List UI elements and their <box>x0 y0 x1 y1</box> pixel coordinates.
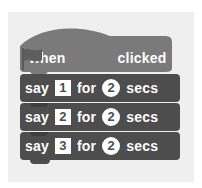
block-bottom-tab <box>30 160 50 164</box>
say-label: say <box>25 80 49 96</box>
secs-label: secs <box>126 109 158 125</box>
message-input[interactable]: 2 <box>55 109 71 125</box>
duration-input[interactable]: 2 <box>102 108 120 126</box>
say-for-secs-block-3[interactable]: say 3 for 2 secs <box>20 132 180 160</box>
message-input[interactable]: 3 <box>55 138 71 154</box>
hat-suffix-label: clicked <box>118 50 167 66</box>
duration-input[interactable]: 2 <box>102 137 120 155</box>
block-notch <box>30 103 48 107</box>
when-flag-clicked-block[interactable]: when clicked <box>20 24 172 72</box>
say-label: say <box>25 138 49 154</box>
say-for-secs-block-1[interactable]: say 1 for 2 secs <box>20 74 180 102</box>
block-notch <box>30 132 48 136</box>
message-input[interactable]: 1 <box>55 80 71 96</box>
green-flag-icon <box>80 46 106 70</box>
say-for-secs-block-2[interactable]: say 2 for 2 secs <box>20 103 180 131</box>
say-label: say <box>25 109 49 125</box>
for-label: for <box>77 109 96 125</box>
secs-label: secs <box>126 80 158 96</box>
secs-label: secs <box>126 138 158 154</box>
duration-input[interactable]: 2 <box>102 79 120 97</box>
for-label: for <box>77 138 96 154</box>
for-label: for <box>77 80 96 96</box>
